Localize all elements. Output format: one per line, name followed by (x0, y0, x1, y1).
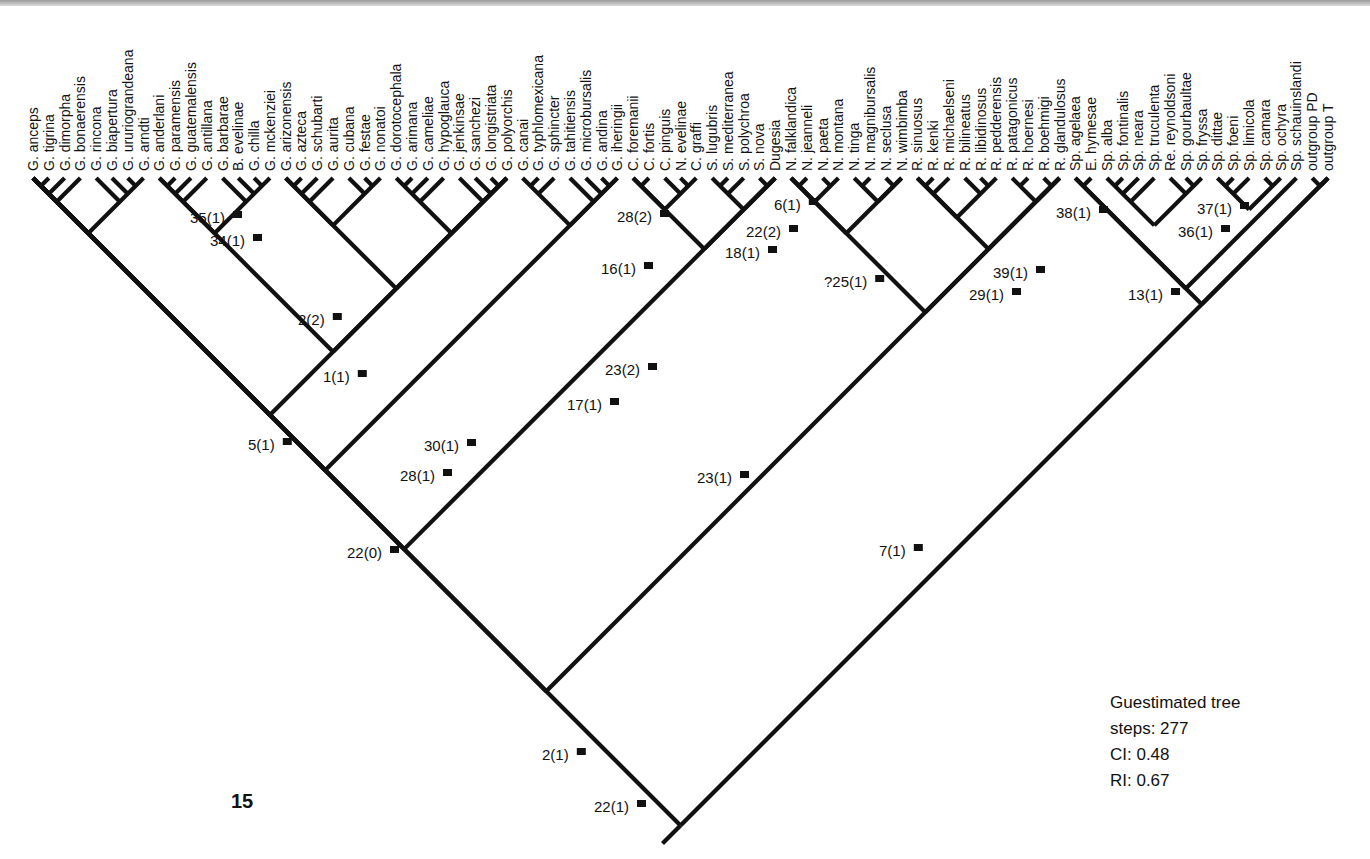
node-label: 35(1) (190, 209, 225, 226)
taxon-label: S. polychroa (736, 93, 752, 171)
tip-branch (167, 178, 175, 186)
taxon-label: G. arimana (404, 102, 420, 171)
node-label: 29(1) (969, 286, 1004, 303)
stats-title: Guestimated tree (1110, 690, 1240, 716)
tip-branch (681, 178, 689, 186)
tip-branch (602, 178, 610, 186)
taxon-label: N. seclusa (878, 105, 894, 171)
taxon-label: N. jeanneli (799, 105, 815, 171)
character-state-mark (443, 469, 452, 476)
character-state-mark (1240, 202, 1249, 209)
tip-branch (49, 178, 65, 194)
tip-branch (586, 178, 602, 194)
taxon-label: Sp. fontinalis (1115, 91, 1131, 171)
character-marks (233, 198, 1249, 807)
taxon-label: G. canai (515, 119, 531, 171)
tree-statistics: Guestimated tree steps: 277 CI: 0.48 RI:… (1110, 690, 1240, 794)
node-label: 23(1) (697, 469, 732, 486)
clade-right-arm (1320, 178, 1328, 186)
taxon-label: R. kenki (925, 120, 941, 171)
tip-branch (1123, 178, 1139, 194)
taxon-label: R. hoernesi (1020, 99, 1036, 171)
character-state-mark (467, 439, 476, 446)
tip-branch (720, 178, 728, 186)
clade-left-arm (1075, 178, 1186, 289)
node-label: 17(1) (567, 396, 602, 413)
node-label: 22(1) (594, 798, 629, 815)
node-label: 5(1) (248, 436, 275, 453)
taxon-label: G. festae (357, 114, 373, 171)
taxon-label: G. tigrina (41, 114, 57, 171)
character-state-mark (253, 234, 262, 241)
taxon-label: G. arizonensis (278, 82, 294, 171)
node-label: 39(1) (993, 264, 1028, 281)
taxon-label: G. chilla (246, 120, 262, 171)
node-label: ?25(1) (824, 273, 867, 290)
tip-branch (41, 178, 49, 186)
tip-branch (759, 178, 767, 186)
taxon-label: outgroup T (1320, 103, 1336, 171)
taxon-label: G. sanchezi (467, 97, 483, 171)
taxon-label: G. tahitiensis (562, 90, 578, 171)
character-state-mark (333, 313, 342, 320)
taxon-label: Dugesia (767, 119, 783, 171)
taxon-label: Sp. truculenta (1146, 84, 1162, 171)
taxon-label: S. lugubris (704, 105, 720, 171)
node-label: 22(2) (746, 223, 781, 240)
taxon-label: R. glandulosus (1052, 78, 1068, 171)
clade-right-arm (1202, 178, 1328, 304)
taxon-label: G. dimorpha (57, 94, 73, 171)
tip-branch (254, 178, 262, 186)
clade-left-arm (1312, 178, 1320, 186)
tip-branch (530, 178, 538, 186)
tip-branch (641, 178, 649, 186)
taxon-label: G. antillana (199, 100, 215, 171)
taxon-label: Re. reynoldsoni (1162, 74, 1178, 171)
taxon-label: S. nova (751, 123, 767, 171)
taxon-label: G. microbursalis (578, 70, 594, 171)
character-state-mark (1036, 266, 1045, 273)
node-label: 34(1) (210, 232, 245, 249)
character-state-mark (875, 275, 884, 282)
taxon-label: G. andina (594, 110, 610, 171)
stats-ci: CI: 0.48 (1110, 742, 1240, 768)
node-label: 36(1) (1178, 223, 1213, 240)
tip-branch (728, 178, 744, 194)
character-state-mark (358, 370, 367, 377)
taxon-label: Sp. agelaea (1067, 96, 1083, 171)
taxon-label: G. cubana (341, 106, 357, 171)
taxon-label: G. anderlani (151, 95, 167, 171)
taxon-label: R. michaelseni (941, 79, 957, 171)
node-label: 28(2) (617, 208, 652, 225)
taxon-label: G. bonaerensis (72, 76, 88, 171)
node-label: 16(1) (601, 260, 636, 277)
taxon-label: Sp. ochyra (1273, 104, 1289, 171)
node-label: 7(1) (879, 542, 906, 559)
clade-left-arm (633, 178, 665, 210)
node-labels: 35(1)34(1)2(2)1(1)5(1)28(2)6(1)22(2)18(1… (190, 196, 1232, 815)
taxon-label: E. hymesae (1083, 97, 1099, 171)
tip-branch (301, 178, 317, 194)
taxon-label: G. jenkinsae (451, 93, 467, 171)
taxon-label: N. wimbimba (894, 90, 910, 171)
taxon-label: C. pinguis (657, 109, 673, 171)
node-label: 2(1) (542, 746, 569, 763)
taxon-label: R. libidinosus (973, 88, 989, 171)
tip-branch (965, 178, 981, 194)
taxon-label: G. rincona (88, 106, 104, 171)
taxon-label: G. biapertura (104, 89, 120, 171)
character-state-mark (1012, 288, 1021, 295)
taxon-label: R. boehmigi (1036, 96, 1052, 171)
taxon-label: G. cameliae (420, 96, 436, 171)
node-label: 28(1) (400, 467, 435, 484)
taxon-label: G. polyorchis (499, 89, 515, 171)
taxon-label: Sp. limicola (1241, 99, 1257, 171)
character-state-mark (660, 210, 669, 217)
taxon-label: G. aurita (325, 117, 341, 171)
tip-branch (886, 178, 894, 186)
taxon-label: C. foremanii (625, 96, 641, 171)
tip-branch (294, 178, 302, 186)
node-label: 18(1) (725, 244, 760, 261)
node-label: 13(1) (1128, 286, 1163, 303)
taxon-label: S. mediterranea (720, 71, 736, 171)
